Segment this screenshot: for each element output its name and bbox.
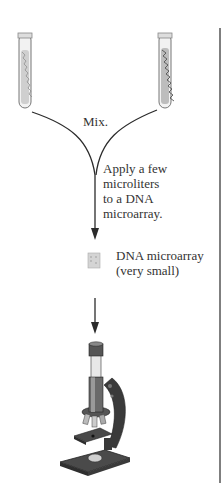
apply-line-3: to a DNA (103, 191, 167, 206)
microarray-line-1: DNA microarray (116, 248, 204, 263)
microarray-label: DNA microarray (very small) (116, 248, 204, 278)
apply-line-4: microarray. (103, 206, 167, 221)
arrow-down-icon (91, 228, 99, 240)
diagram-canvas (0, 0, 223, 483)
microscope-icon (60, 342, 130, 476)
microarray-line-2: (very small) (116, 263, 204, 278)
left-test-tube-icon (18, 33, 32, 108)
apply-line-2: microliters (103, 176, 167, 191)
mix-label: Mix. (83, 114, 108, 129)
apply-instructions: Apply a few microliters to a DNA microar… (103, 161, 167, 221)
apply-line-1: Apply a few (103, 161, 167, 176)
arrow-down-icon-2 (91, 322, 99, 334)
left-mix-line (32, 112, 95, 230)
right-test-tube-icon (158, 33, 174, 108)
microarray-chip-icon (88, 253, 100, 268)
